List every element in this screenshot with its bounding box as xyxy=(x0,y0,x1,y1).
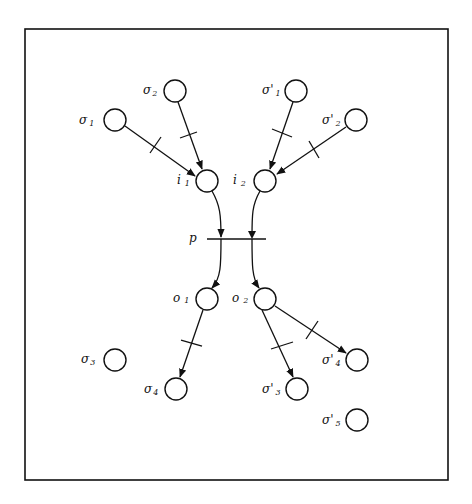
label-sigmap4: σ'4 xyxy=(322,353,341,368)
arc-o1-sigma4 xyxy=(180,310,203,377)
place-sigmap3 xyxy=(286,378,308,400)
place-sigmap1 xyxy=(285,80,307,102)
place-i1 xyxy=(196,170,218,192)
place-i2 xyxy=(254,170,276,192)
label-sigmap1: σ'1 xyxy=(262,83,281,98)
place-sigmap4 xyxy=(346,349,368,371)
label-i1: i1 xyxy=(177,173,190,188)
arc-sigma2-i1 xyxy=(178,102,202,169)
arc-sigmap1-i2 xyxy=(270,102,293,169)
place-o2 xyxy=(254,288,276,310)
place-sigma3 xyxy=(104,349,126,371)
place-sigma1 xyxy=(104,109,126,131)
arc-p-o1 xyxy=(212,239,221,288)
arc-o2-sigmap4 xyxy=(275,306,346,353)
diagram-frame xyxy=(25,29,448,480)
label-o2: o2 xyxy=(232,291,248,305)
label-sigmap3: σ'3 xyxy=(262,382,281,397)
arc-o2-sigmap3 xyxy=(262,310,293,377)
arc-i1-p xyxy=(212,191,221,237)
arc-sigmap2-i2 xyxy=(277,127,346,174)
label-sigma3: σ3 xyxy=(81,352,95,367)
arc-p-o2 xyxy=(252,239,259,288)
label-o1: o1 xyxy=(173,291,189,305)
petri-net-diagram: σ1 σ2 σ'1 σ'2 i1 i2 p o1 o2 σ3 σ4 σ'3 σ'… xyxy=(0,0,472,504)
place-sigmap5 xyxy=(346,409,368,431)
label-sigmap2: σ'2 xyxy=(322,113,341,128)
place-sigmap2 xyxy=(345,109,367,131)
label-i2: i2 xyxy=(233,173,246,188)
label-sigma2: σ2 xyxy=(143,83,157,98)
arc-sigma1-i1 xyxy=(125,126,195,176)
place-o1 xyxy=(196,288,218,310)
place-sigma4 xyxy=(165,378,187,400)
arrowhead-p-right xyxy=(248,231,256,239)
label-sigmap5: σ'5 xyxy=(322,413,341,428)
label-sigma4: σ4 xyxy=(144,382,158,397)
arc-i2-p xyxy=(252,191,260,237)
label-p: p xyxy=(189,231,197,245)
place-sigma2 xyxy=(164,80,186,102)
label-sigma1: σ1 xyxy=(79,113,94,128)
